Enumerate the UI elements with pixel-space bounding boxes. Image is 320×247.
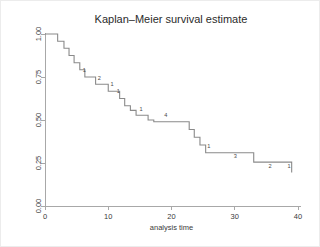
censor-count-label: 3 [234,153,237,159]
censor-count-label: 1 [117,88,120,94]
censor-count-label: 4 [164,112,167,118]
y-tick-label: 0.25 [34,156,43,171]
censor-count-label: 2 [98,75,101,81]
x-tick-label: 20 [167,212,175,221]
censor-annotation-group: 1211141321 [83,67,291,169]
x-axis-title: analysis time [150,223,193,232]
chart-title: Kaplan–Meier survival estimate [95,13,248,25]
survival-curve-group [45,34,292,172]
x-axis: 010203040 analysis time [43,206,302,232]
censor-count-label: 1 [288,163,291,169]
figure-canvas: Kaplan–Meier survival estimate 0.000.250… [0,0,320,247]
y-tick-label: 0.50 [34,113,43,128]
y-axis: 0.000.250.500.751.00 [34,27,46,214]
censor-count-label: 1 [140,106,143,112]
kaplan-meier-chart: Kaplan–Meier survival estimate 0.000.250… [1,1,320,247]
y-tick-label: 0.00 [34,199,43,214]
x-tick-label: 40 [294,212,302,221]
censor-count-label: 1 [207,143,210,149]
x-tick-label: 10 [104,212,112,221]
censor-count-label: 2 [269,163,272,169]
x-tick-label: 0 [43,212,47,221]
y-tick-group: 0.000.250.500.751.00 [34,27,46,214]
x-tick-label: 30 [231,212,239,221]
censor-count-label: 1 [83,67,86,73]
censor-count-label: 1 [110,81,113,87]
y-tick-label: 0.75 [34,70,43,85]
x-tick-group: 010203040 [43,206,302,221]
y-tick-label: 1.00 [34,27,43,42]
survival-step-line [45,34,292,172]
